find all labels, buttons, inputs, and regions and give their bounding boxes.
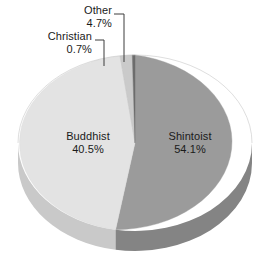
slice-label-other-value: 4.7%	[32, 17, 112, 30]
slice-label-christian: Christian 0.7%	[6, 30, 92, 56]
slice-label-shintoist-name: Shintoist	[148, 130, 232, 143]
slice-label-christian-value: 0.7%	[6, 43, 92, 56]
pie-chart: Shintoist 54.1% Buddhist 40.5% Other 4.7…	[0, 0, 269, 267]
slice-label-other: Other 4.7%	[32, 4, 112, 30]
slice-label-buddhist: Buddhist 40.5%	[46, 130, 130, 156]
slice-label-buddhist-value: 40.5%	[46, 143, 130, 156]
leader-line-other	[114, 14, 124, 62]
slice-label-buddhist-name: Buddhist	[46, 130, 130, 143]
slice-label-shintoist-value: 54.1%	[148, 143, 232, 156]
slice-label-other-name: Other	[32, 4, 112, 17]
slice-label-christian-name: Christian	[6, 30, 92, 43]
slice-label-shintoist: Shintoist 54.1%	[148, 130, 232, 156]
